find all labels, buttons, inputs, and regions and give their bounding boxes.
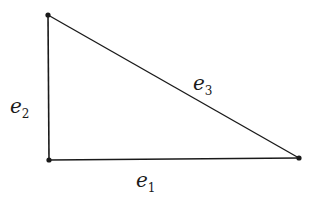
vertex-bottom-right xyxy=(296,155,301,160)
triangle-diagram: e2 e1 e3 xyxy=(0,0,317,204)
label-e3-sub: 3 xyxy=(205,84,213,98)
edge-e2 xyxy=(48,15,49,160)
triangle-drawing xyxy=(0,0,317,204)
label-e1-sub: 1 xyxy=(148,181,156,195)
label-e2: e2 xyxy=(10,96,29,120)
label-e3: e3 xyxy=(193,73,212,97)
label-e2-base: e xyxy=(10,94,22,118)
vertex-top-left xyxy=(45,12,50,17)
label-e2-sub: 2 xyxy=(22,107,30,121)
vertex-bottom-left xyxy=(46,157,51,162)
label-e1: e1 xyxy=(136,170,155,194)
label-e1-base: e xyxy=(136,168,148,192)
label-e3-base: e xyxy=(193,71,205,95)
edge-e3 xyxy=(48,15,299,158)
edge-e1 xyxy=(49,158,299,160)
